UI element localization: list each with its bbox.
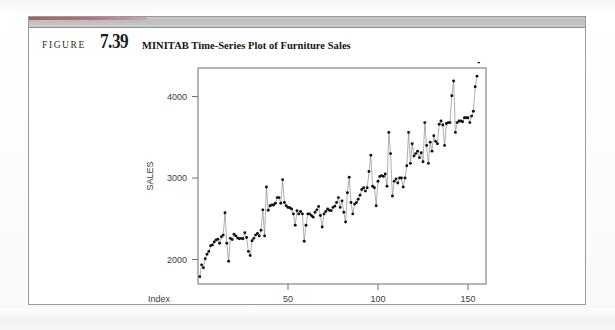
figure-number: 7.39 <box>100 29 128 54</box>
figure-header-band <box>29 17 585 28</box>
figure-title: MINITAB Time-Series Plot of Furniture Sa… <box>142 40 351 51</box>
series-line-sales <box>200 76 477 277</box>
x-tick-label: 100 <box>370 294 385 304</box>
plot-frame <box>198 68 486 284</box>
chart-area: 200030004000 50100150 SALES Index <box>29 62 585 305</box>
figure-caption-row: FIGURE 7.39 MINITAB Time-Series Plot of … <box>29 28 585 62</box>
page-top-shading <box>0 0 615 14</box>
series-markers-sales <box>198 62 480 278</box>
x-tick-label: 150 <box>460 294 475 304</box>
page-bottom-shading <box>0 308 615 330</box>
x-axis-title: Index <box>148 294 171 304</box>
y-tick-label: 2000 <box>167 255 187 265</box>
y-axis-ticks: 200030004000 <box>167 92 198 265</box>
figure-container: FIGURE 7.39 MINITAB Time-Series Plot of … <box>28 16 586 305</box>
figure-label: FIGURE <box>42 40 86 50</box>
y-axis-title: SALES <box>145 161 155 190</box>
timeseries-plot: 200030004000 50100150 SALES Index <box>29 62 585 305</box>
x-axis-ticks: 50100150 <box>283 284 476 304</box>
y-tick-label: 3000 <box>167 173 187 183</box>
y-tick-label: 4000 <box>167 92 187 102</box>
x-tick-label: 50 <box>283 294 293 304</box>
figure-accent-stripe <box>29 17 147 20</box>
